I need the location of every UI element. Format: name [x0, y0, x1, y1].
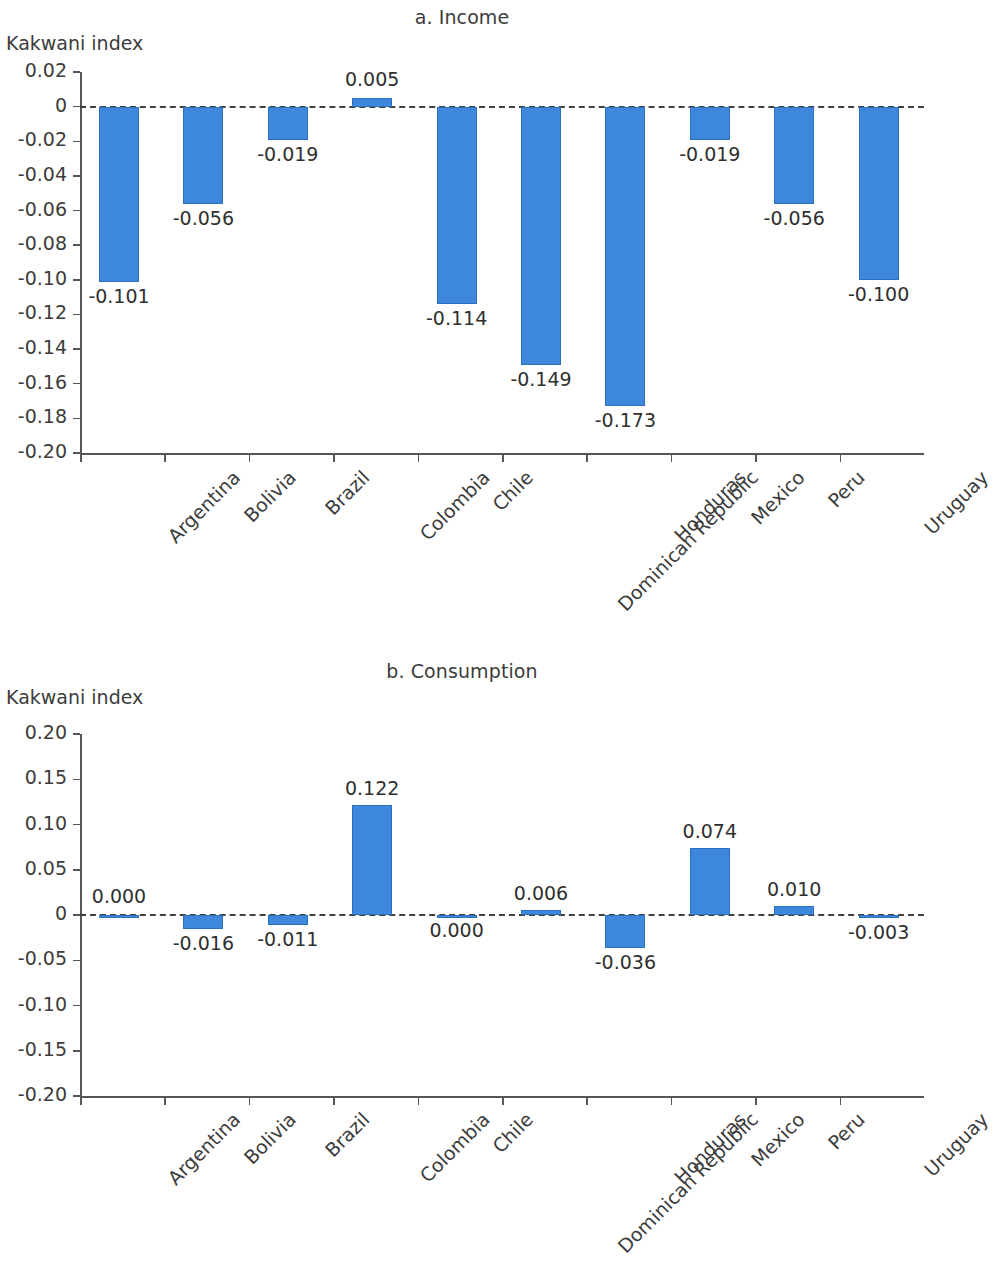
x-category-label: Chile [488, 1108, 537, 1157]
y-tick-label: -0.20 [0, 440, 67, 462]
bar [690, 848, 730, 915]
bar-value-label: 0.000 [64, 885, 174, 907]
bar [605, 107, 645, 407]
x-tick-mark [502, 453, 504, 462]
bar-value-label: -0.011 [233, 928, 343, 950]
bar [268, 915, 308, 925]
bar-value-label: -0.114 [402, 307, 512, 329]
y-tick-mark [73, 141, 80, 143]
bar-value-label: -0.056 [148, 207, 258, 229]
x-tick-mark [755, 453, 757, 462]
panel-title-consumption: b. Consumption [0, 660, 924, 682]
x-tick-mark [164, 1096, 166, 1105]
y-tick-label: 0 [0, 902, 67, 924]
bar [352, 805, 392, 915]
x-tick-mark [840, 453, 842, 462]
y-tick-mark [73, 960, 80, 962]
x-category-label: Bolivia [239, 1108, 299, 1168]
x-category-label: Bolivia [239, 466, 299, 526]
y-tick-label: -0.10 [0, 267, 67, 289]
bar [690, 107, 730, 140]
y-tick-label: 0.15 [0, 766, 67, 788]
y-tick-label: -0.16 [0, 371, 67, 393]
y-tick-label: 0.05 [0, 857, 67, 879]
bar [268, 107, 308, 140]
bar [99, 107, 139, 282]
x-tick-mark [333, 1096, 335, 1105]
bar-value-label: -0.100 [824, 283, 934, 305]
y-tick-mark [73, 1050, 80, 1052]
x-tick-mark [249, 453, 251, 462]
bar-value-label: -0.036 [570, 951, 680, 973]
y-tick-mark [73, 869, 80, 871]
x-category-label: Peru [824, 466, 869, 511]
bar [521, 910, 561, 915]
y-tick-label: 0 [0, 94, 67, 116]
bar-value-label: -0.019 [655, 143, 765, 165]
y-tick-label: -0.05 [0, 947, 67, 969]
y-tick-mark [73, 71, 80, 73]
x-tick-mark [671, 1096, 673, 1105]
y-tick-mark [73, 348, 80, 350]
x-tick-mark [586, 453, 588, 462]
bar [605, 915, 645, 948]
bar-value-label: -0.173 [570, 409, 680, 431]
bar-value-label: 0.122 [317, 777, 427, 799]
bar [437, 915, 477, 918]
y-tick-label: -0.18 [0, 405, 67, 427]
x-category-label: Brazil [321, 1108, 374, 1161]
bar-value-label: 0.074 [655, 820, 765, 842]
bar-value-label: -0.149 [486, 368, 596, 390]
x-category-label: Colombia [416, 1108, 495, 1187]
x-tick-mark [80, 1096, 82, 1105]
x-tick-mark [249, 1096, 251, 1105]
y-axis-line [80, 72, 82, 453]
y-tick-label: -0.15 [0, 1038, 67, 1060]
y-tick-mark [73, 452, 80, 454]
bar [183, 915, 223, 929]
bar [521, 107, 561, 365]
y-axis-title: Kakwani index [6, 686, 143, 708]
y-tick-mark [73, 418, 80, 420]
bar-value-label: -0.003 [824, 921, 934, 943]
bar-value-label: 0.006 [486, 882, 596, 904]
y-tick-label: -0.20 [0, 1083, 67, 1105]
bar [183, 107, 223, 204]
bar-value-label: -0.101 [64, 285, 174, 307]
y-tick-label: -0.12 [0, 301, 67, 323]
panel-title-income: a. Income [0, 6, 924, 28]
bar [99, 915, 139, 918]
y-tick-mark [73, 244, 80, 246]
y-tick-label: -0.06 [0, 198, 67, 220]
bar [859, 915, 899, 918]
y-tick-mark [73, 733, 80, 735]
x-tick-mark [671, 453, 673, 462]
x-tick-mark [586, 1096, 588, 1105]
x-tick-mark [418, 1096, 420, 1105]
x-category-label: Peru [824, 1108, 869, 1153]
y-tick-mark [73, 914, 80, 916]
y-tick-label: 0.20 [0, 721, 67, 743]
bar [352, 98, 392, 107]
x-tick-mark [333, 453, 335, 462]
y-tick-mark [73, 1005, 80, 1007]
y-tick-label: -0.10 [0, 993, 67, 1015]
x-category-label: Brazil [321, 466, 374, 519]
bar-value-label: -0.056 [739, 207, 849, 229]
bar [774, 107, 814, 204]
y-tick-mark [73, 210, 80, 212]
y-tick-label: 0.02 [0, 59, 67, 81]
x-tick-mark [80, 453, 82, 462]
bar-value-label: 0.010 [739, 878, 849, 900]
x-tick-mark [164, 453, 166, 462]
y-tick-label: -0.02 [0, 128, 67, 150]
y-tick-mark [73, 279, 80, 281]
y-tick-mark [73, 1095, 80, 1097]
bar-value-label: 0.000 [402, 919, 512, 941]
y-tick-mark [73, 106, 80, 108]
bar [774, 906, 814, 915]
y-tick-mark [73, 314, 80, 316]
bar-value-label: 0.005 [317, 68, 427, 90]
x-category-label: Colombia [416, 466, 495, 545]
y-axis-title: Kakwani index [6, 32, 143, 54]
